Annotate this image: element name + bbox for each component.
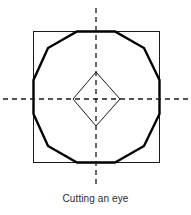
figure-container: Cutting an eye: [0, 0, 191, 215]
cutting-an-eye-diagram: [0, 0, 191, 215]
figure-caption: Cutting an eye: [0, 193, 191, 204]
bounding-square-shape: [34, 32, 160, 163]
dodecagon-shape: [34, 32, 160, 163]
